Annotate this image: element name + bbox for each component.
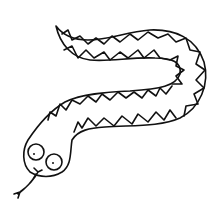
- right-eye-icon: [46, 154, 62, 170]
- zigzag-pattern-upper-outer: [62, 30, 205, 116]
- zigzag-pattern-upper-inner: [64, 46, 184, 84]
- left-eye-icon: [28, 144, 44, 160]
- snake-drawing-canvas: [0, 0, 218, 218]
- right-pupil: [52, 162, 54, 164]
- snake-tongue: [14, 168, 42, 198]
- snake-illustration: [0, 0, 218, 218]
- left-pupil: [33, 153, 35, 155]
